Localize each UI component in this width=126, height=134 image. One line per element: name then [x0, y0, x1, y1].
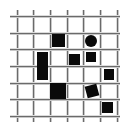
square-shape-0 — [52, 34, 65, 47]
grid-line-horizontal-3 — [10, 66, 120, 67]
grid-line-horizontal-1 — [10, 33, 120, 34]
square-shape-6 — [50, 83, 66, 99]
grid-line-horizontal-2 — [10, 49, 120, 50]
square-shape-7 — [85, 84, 100, 99]
grid-line-horizontal-6 — [10, 116, 120, 117]
grid-line-horizontal-5 — [10, 99, 120, 100]
grid-board — [0, 0, 126, 134]
square-shape-4 — [86, 52, 96, 62]
grid-line-horizontal-0 — [10, 16, 120, 17]
square-shape-3 — [69, 54, 80, 65]
rect-shape-2 — [37, 52, 48, 80]
square-shape-5 — [104, 69, 114, 80]
square-shape-8 — [102, 102, 113, 113]
circle-shape-1 — [85, 35, 97, 47]
